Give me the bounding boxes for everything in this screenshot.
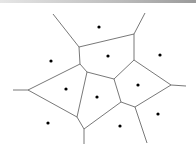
voronoi-site: [106, 54, 109, 57]
voronoi-edge: [79, 47, 80, 64]
voronoi-edge: [28, 64, 80, 90]
voronoi-edge: [134, 60, 171, 85]
voronoi-edge: [87, 72, 114, 79]
voronoi-edge: [135, 107, 147, 143]
voronoi-edge: [79, 34, 134, 47]
voronoi-edge: [77, 117, 84, 129]
voronoi-edge: [114, 60, 134, 79]
voronoi-site: [49, 59, 52, 62]
voronoi-site: [136, 83, 139, 86]
voronoi-edge: [134, 13, 145, 34]
voronoi-edge: [84, 102, 121, 129]
voronoi-site: [46, 121, 49, 124]
voronoi-edge: [80, 64, 87, 72]
voronoi-edge: [135, 85, 171, 107]
voronoi-site: [95, 95, 98, 98]
voronoi-edge: [171, 85, 186, 86]
voronoi-edge: [28, 90, 77, 117]
voronoi-site: [64, 87, 67, 90]
voronoi-edge: [53, 14, 79, 47]
voronoi-edge: [114, 79, 121, 102]
voronoi-site: [97, 25, 100, 28]
voronoi-site: [158, 53, 161, 56]
voronoi-site: [118, 124, 121, 127]
voronoi-edge: [121, 102, 135, 107]
voronoi-edges: [13, 13, 186, 144]
voronoi-site: [156, 112, 159, 115]
voronoi-diagram: [0, 0, 196, 150]
voronoi-edge: [77, 72, 87, 117]
